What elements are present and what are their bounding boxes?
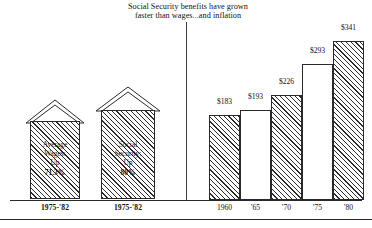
bar-value-1965: $193 bbox=[240, 92, 271, 101]
bottom-rule bbox=[0, 219, 372, 220]
chart-title-line-1: Social Security benefits have grown bbox=[128, 2, 248, 11]
panel-divider bbox=[186, 22, 187, 200]
bar-value-1980: $341 bbox=[333, 23, 364, 32]
bar-1965 bbox=[240, 110, 271, 200]
house-label-line-3: Up bbox=[97, 158, 159, 167]
house-label-value: 80% bbox=[97, 168, 159, 177]
house-label-social-security: Social Security: Up 80% bbox=[97, 140, 159, 177]
chart-title: Social Security benefits have grown fast… bbox=[108, 2, 268, 21]
chart-canvas: Social Security benefits have grown fast… bbox=[0, 0, 372, 228]
axis-tick-1975: '75 bbox=[302, 203, 333, 213]
bar-1970 bbox=[271, 95, 302, 200]
house-label-average-wages: Average Wages: Up 71.3% bbox=[30, 140, 80, 177]
bar-1960 bbox=[209, 115, 240, 200]
bar-value-1975: $293 bbox=[302, 46, 333, 55]
bar-value-1970: $226 bbox=[271, 77, 302, 86]
axis-tick-1980: '80 bbox=[333, 203, 364, 213]
chart-title-line-2: faster than wages...and inflation bbox=[135, 11, 241, 20]
axis-tick-1965: '65 bbox=[240, 203, 271, 213]
axis-label-social-security-period: 1975-'82 bbox=[93, 203, 163, 213]
house-label-line-2: Wages: bbox=[30, 149, 80, 158]
house-label-line-3: Up bbox=[30, 158, 80, 167]
house-label-value: 71.3% bbox=[30, 168, 80, 177]
chart-baseline bbox=[10, 200, 362, 201]
bar-value-1960: $183 bbox=[209, 97, 240, 106]
axis-label-wages-period: 1975-'82 bbox=[20, 203, 90, 213]
axis-tick-1970: '70 bbox=[271, 203, 302, 213]
house-label-line-2: Security: bbox=[97, 149, 159, 158]
bar-1975 bbox=[302, 64, 333, 200]
house-label-line-1: Social bbox=[97, 140, 159, 149]
bar-1980 bbox=[333, 41, 364, 200]
house-label-line-1: Average bbox=[30, 140, 80, 149]
axis-tick-1960: 1960 bbox=[209, 203, 240, 213]
